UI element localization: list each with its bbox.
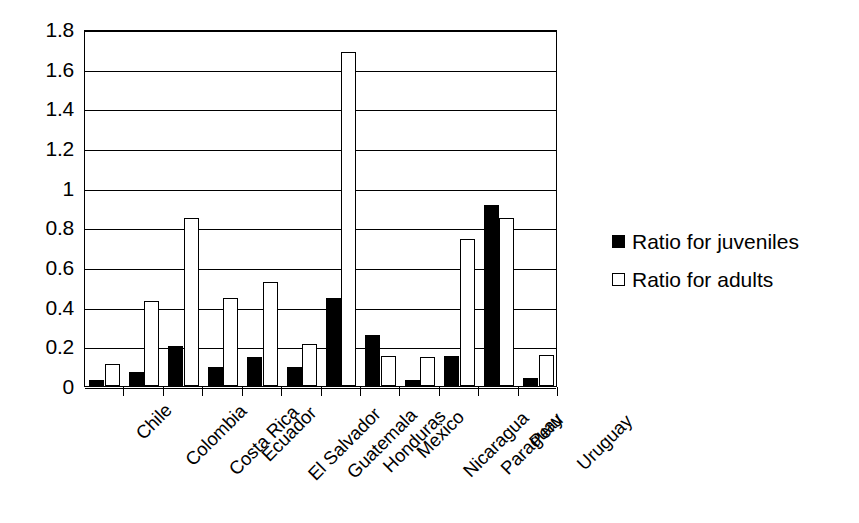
- bar-juveniles: [129, 372, 144, 386]
- x-axis-tick: [439, 387, 440, 396]
- bar-juveniles: [444, 356, 459, 386]
- legend-item-juveniles: Ratio for juveniles: [612, 222, 852, 260]
- y-axis-tick-label: 1.6: [0, 59, 74, 80]
- bar-juveniles: [247, 357, 262, 386]
- bar-group: [440, 31, 479, 386]
- bar-group: [361, 31, 400, 386]
- x-axis-tick-label: Uruguay: [574, 411, 636, 473]
- legend-item-label: Ratio for juveniles: [632, 231, 799, 252]
- bar-chart: 00.20.40.60.811.21.41.61.8 ChileColombia…: [0, 0, 859, 523]
- bar-adults: [341, 52, 356, 386]
- x-axis-tick: [478, 387, 479, 396]
- bar-group: [400, 31, 439, 386]
- bar-group: [203, 31, 242, 386]
- plot-area: [84, 30, 557, 387]
- bar-juveniles: [287, 367, 302, 386]
- bar-juveniles: [89, 380, 104, 386]
- bar-adults: [460, 239, 475, 386]
- bar-adults: [184, 218, 199, 386]
- bar-group: [124, 31, 163, 386]
- bar-adults: [381, 356, 396, 386]
- y-axis-tick-labels: 00.20.40.60.811.21.41.61.8: [0, 0, 74, 400]
- bar-adults: [105, 364, 120, 386]
- bar-adults: [263, 282, 278, 386]
- bar-juveniles: [405, 380, 420, 386]
- y-axis-tick-label: 1.8: [0, 19, 74, 40]
- bar-juveniles: [523, 378, 538, 386]
- bar-group: [85, 31, 124, 386]
- x-axis-tick: [202, 387, 203, 396]
- bar-juveniles: [168, 346, 183, 386]
- chart-legend: Ratio for juveniles Ratio for adults: [612, 222, 852, 298]
- filled-square-icon: [612, 235, 625, 248]
- y-axis-tick-label: 1: [0, 178, 74, 199]
- x-axis-tick: [123, 387, 124, 396]
- x-axis-tick-label: Chile: [132, 400, 175, 443]
- bar-adults: [144, 301, 159, 386]
- bar-group: [519, 31, 558, 386]
- open-square-icon: [612, 273, 625, 286]
- x-axis-tick: [242, 387, 243, 396]
- x-axis-tick: [163, 387, 164, 396]
- bars-layer: [85, 31, 556, 386]
- bar-group: [164, 31, 203, 386]
- y-axis-tick-label: 1.2: [0, 138, 74, 159]
- bar-juveniles: [326, 298, 341, 386]
- bar-adults: [499, 218, 514, 386]
- bar-group: [282, 31, 321, 386]
- bar-adults: [302, 344, 317, 386]
- bar-adults: [420, 357, 435, 386]
- y-axis-tick-label: 0.6: [0, 257, 74, 278]
- bar-juveniles: [208, 367, 223, 386]
- bar-adults: [539, 355, 554, 386]
- bar-group: [243, 31, 282, 386]
- legend-item-label: Ratio for adults: [632, 269, 773, 290]
- x-axis-tick: [281, 387, 282, 396]
- y-axis-tick-label: 0.2: [0, 336, 74, 357]
- y-axis-tick-label: 0: [0, 376, 74, 397]
- y-axis-tick-label: 0.8: [0, 217, 74, 238]
- x-axis-tick: [321, 387, 322, 396]
- bar-juveniles: [365, 335, 380, 386]
- x-axis-tick: [360, 387, 361, 396]
- x-axis-category-labels: ChileColombiaCosta RicaEcuadorEl Salvado…: [0, 396, 600, 523]
- y-axis-tick-label: 1.4: [0, 98, 74, 119]
- x-axis-tick: [557, 387, 558, 396]
- x-axis-tick: [399, 387, 400, 396]
- bar-adults: [223, 298, 238, 386]
- x-axis-tick: [518, 387, 519, 396]
- bar-juveniles: [484, 205, 499, 386]
- bar-group: [479, 31, 518, 386]
- bar-group: [322, 31, 361, 386]
- legend-item-adults: Ratio for adults: [612, 260, 852, 298]
- y-axis-tick-label: 0.4: [0, 297, 74, 318]
